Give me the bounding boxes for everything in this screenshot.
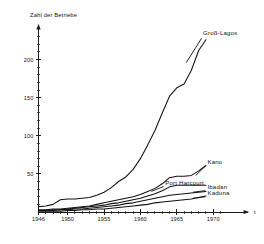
series-line-ibadan [39, 191, 206, 210]
annotation-leader-lines [151, 38, 205, 198]
series-line-kano [39, 166, 206, 210]
series-label-kano: Kano [207, 158, 222, 165]
x-tick-label: 1955 [98, 216, 111, 222]
series-annotations: Groß-LagosKanoPort HarcourtIbadanKaduna [165, 29, 237, 196]
x-tick-label: 1960 [134, 216, 147, 222]
line-chart-canvas: 50100150200194619501955196019651970 Groß… [0, 0, 264, 244]
y-tick-label: 100 [24, 133, 34, 139]
axis-tick-labels: 50100150200194619501955196019651970 [24, 57, 220, 223]
y-axis-title: Zahl der Betriebe [30, 12, 77, 18]
series-label-port-harcourt: Port Harcourt [165, 179, 204, 186]
y-axis-arrowhead [36, 24, 40, 30]
x-axis-end-symbol: t [254, 209, 256, 215]
chart-figure: 50100150200194619501955196019651970 Groß… [0, 0, 264, 244]
y-tick-label: 50 [27, 171, 33, 177]
x-tick-label: 1946 [32, 216, 45, 222]
leader-line-1 [196, 166, 205, 175]
x-tick-label: 1965 [170, 216, 183, 222]
y-tick-label: 150 [24, 95, 34, 101]
x-tick-label: 1970 [207, 216, 220, 222]
x-axis-arrowhead [244, 210, 250, 214]
series-label-kaduna: Kaduna [207, 189, 230, 196]
axis-ticks [36, 37, 221, 215]
x-tick-label: 1950 [61, 216, 74, 222]
series-label-gro-lagos: Groß-Lagos [203, 29, 238, 36]
y-tick-label: 200 [24, 57, 34, 63]
